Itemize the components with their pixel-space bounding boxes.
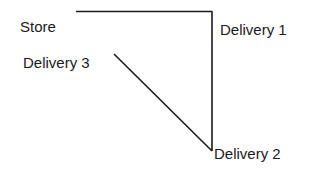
node-label-delivery-1: Delivery 1	[220, 22, 287, 37]
node-label-delivery-3: Delivery 3	[23, 55, 90, 70]
route-delivery-2-to-delivery-3	[114, 54, 212, 151]
node-label-delivery-2: Delivery 2	[214, 146, 281, 161]
node-label-store: Store	[20, 19, 56, 34]
